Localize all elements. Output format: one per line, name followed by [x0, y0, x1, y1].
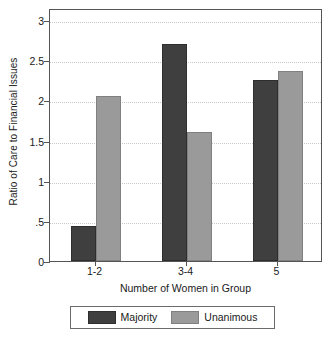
bar-unanimous-5 — [278, 71, 303, 261]
x-axis-tick-label: 3-4 — [178, 266, 193, 277]
y-axis-tick-label: 2.5 — [4, 56, 44, 67]
y-axis-tick-mark — [44, 262, 50, 263]
bar-majority-1-2 — [71, 226, 96, 261]
gridline — [50, 22, 321, 23]
x-axis-tick-label: 1-2 — [87, 266, 102, 277]
x-axis-tick-mark — [186, 262, 187, 266]
bar-chart-figure: Ratio of Care to Financial Issues 0.511.… — [0, 0, 331, 338]
legend-label: Unanimous — [204, 312, 257, 323]
legend-entry-majority[interactable]: Majority — [88, 311, 158, 324]
bar-majority-3-4 — [162, 44, 187, 261]
chart-legend: MajorityUnanimous — [70, 306, 275, 329]
unanimous-swatch — [171, 311, 199, 324]
legend-label: Majority — [121, 312, 158, 323]
legend-entry-unanimous[interactable]: Unanimous — [171, 311, 257, 324]
y-axis-tick-label: 0 — [4, 257, 44, 268]
plot-area — [49, 9, 322, 262]
x-axis-title: Number of Women in Group — [49, 282, 322, 294]
x-axis-tick-label: 5 — [274, 266, 280, 277]
y-axis-tick-label: 1.5 — [4, 136, 44, 147]
y-axis-tick-label: 2 — [4, 96, 44, 107]
bar-unanimous-3-4 — [187, 132, 212, 261]
bar-majority-5 — [253, 80, 278, 261]
y-axis-tick-label: 1 — [4, 176, 44, 187]
y-axis-tick-label: 3 — [4, 16, 44, 27]
y-axis-tick-label: .5 — [4, 217, 44, 228]
majority-swatch — [88, 311, 116, 324]
bar-unanimous-1-2 — [96, 96, 121, 261]
x-axis-tick-mark — [95, 262, 96, 266]
x-axis-tick-mark — [277, 262, 278, 266]
